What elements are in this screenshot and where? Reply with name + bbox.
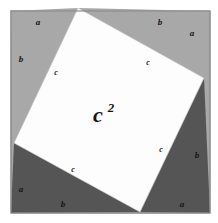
label-b-bottom: b: [61, 199, 66, 209]
label-c-squared-base: c: [93, 102, 103, 127]
label-b-left: b: [19, 54, 24, 64]
pythagorean-diagram: a a a a b b b b c c c c c 2: [0, 0, 218, 223]
label-c-lower-right: c: [159, 145, 163, 154]
diagram-canvas: a a a a b b b b c c c c c 2: [0, 0, 218, 223]
label-a-top-right: a: [190, 28, 195, 38]
label-b-right: b: [195, 150, 200, 160]
label-a-top-left: a: [36, 17, 41, 27]
label-c-lower-left: c: [71, 165, 75, 174]
label-c-upper-left: c: [54, 68, 58, 77]
label-c-upper-right: c: [146, 58, 150, 67]
label-b-top-right: b: [158, 17, 163, 27]
label-c-squared-exponent: 2: [107, 100, 115, 115]
label-a-bottom-right: a: [180, 199, 185, 209]
label-a-bottom-left: a: [19, 184, 24, 194]
